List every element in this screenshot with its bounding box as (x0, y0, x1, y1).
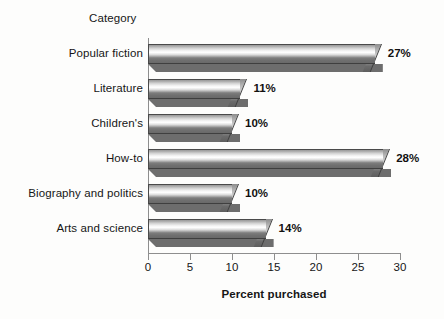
bar (148, 44, 385, 74)
bar-chart-figure: Category 051015202530 Popular fictionLit… (0, 0, 444, 319)
x-axis-tick-label: 5 (187, 261, 193, 273)
bar-front-face (148, 44, 375, 64)
bar (148, 149, 393, 179)
bar-front-face (148, 184, 232, 204)
x-axis-tick (400, 254, 401, 260)
x-axis-tick (274, 254, 275, 260)
x-axis-tick-label: 25 (352, 261, 365, 273)
bar-value-label: 10% (245, 117, 268, 129)
bar (148, 114, 242, 144)
x-axis-tick (190, 254, 191, 260)
category-label: Biography and politics (28, 187, 148, 199)
category-label: Children's (91, 117, 148, 129)
x-axis-tick (148, 254, 149, 260)
x-axis-tick-label: 10 (226, 261, 239, 273)
bar (148, 219, 276, 249)
category-label: How-to (106, 152, 148, 164)
bar-bottom-face (148, 64, 383, 72)
bar-value-label: 28% (396, 152, 419, 164)
x-axis-tick (232, 254, 233, 260)
bar-front-face (148, 219, 266, 239)
bar-value-label: 27% (388, 47, 411, 59)
bar (148, 79, 250, 109)
bar-bottom-face (148, 169, 391, 177)
bar-value-label: 10% (245, 187, 268, 199)
category-label: Arts and science (56, 222, 148, 234)
x-axis-tick-label: 20 (310, 261, 323, 273)
bar-front-face (148, 149, 383, 169)
bar-value-label: 11% (253, 82, 275, 94)
y-axis-title: Category (89, 12, 136, 24)
bar (148, 184, 242, 214)
x-axis-tick-label: 0 (145, 261, 151, 273)
x-axis-title: Percent purchased (148, 288, 400, 300)
x-axis-tick (316, 254, 317, 260)
category-label: Literature (93, 82, 148, 94)
bar-front-face (148, 114, 232, 134)
bar-value-label: 14% (279, 222, 302, 234)
x-axis-tick-label: 15 (268, 261, 281, 273)
x-axis-tick (358, 254, 359, 260)
category-label: Popular fiction (69, 47, 148, 59)
x-axis-tick-label: 30 (394, 261, 407, 273)
bar-front-face (148, 79, 240, 99)
